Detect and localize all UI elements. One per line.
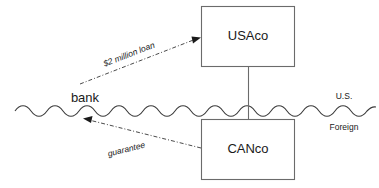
guarantee-arrow-head (83, 116, 93, 123)
guarantee-flow-line (89, 120, 201, 148)
loan-flow-label: $2 million loan (101, 40, 156, 69)
bank-label: bank (71, 90, 100, 105)
region-label-foreign: Foreign (330, 122, 359, 132)
loan-arrow-head (192, 37, 202, 44)
usaco-label: USAco (228, 28, 268, 43)
region-label-us: U.S. (336, 91, 353, 101)
diagram-svg: USAco CANco bank U.S. Foreign $2 million… (0, 0, 379, 188)
canco-label: CANco (227, 141, 268, 156)
us-foreign-border-wave (15, 106, 376, 117)
diagram-canvas: USAco CANco bank U.S. Foreign $2 million… (0, 0, 379, 188)
guarantee-flow-label: guarantee (106, 140, 146, 159)
